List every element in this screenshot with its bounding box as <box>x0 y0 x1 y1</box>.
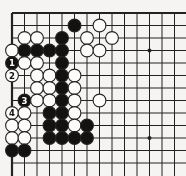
stone-white <box>18 119 31 132</box>
stone-white <box>68 94 81 107</box>
star-point <box>148 136 152 140</box>
stone-white <box>106 32 119 45</box>
stone-white <box>6 132 19 145</box>
stone-black <box>43 119 56 132</box>
stone-black <box>81 132 94 145</box>
stone-black <box>56 132 69 145</box>
move-number-label: 2 <box>9 71 15 81</box>
stone-black <box>18 44 31 57</box>
stone-white <box>18 132 31 145</box>
stone-black <box>56 119 69 132</box>
stone-black <box>43 107 56 120</box>
stone-black <box>31 44 44 57</box>
stone-white <box>18 57 31 70</box>
stone-white <box>68 107 81 120</box>
stone-black <box>56 44 69 57</box>
stone-white <box>18 32 31 45</box>
stone-black <box>81 119 94 132</box>
stone-white <box>93 44 106 57</box>
stone-white <box>31 69 44 82</box>
stone-black <box>68 132 81 145</box>
stone-black <box>43 44 56 57</box>
stone-black <box>18 144 31 157</box>
stone-black <box>56 82 69 95</box>
stone-white <box>43 69 56 82</box>
stone-white <box>81 32 94 45</box>
stone-white <box>93 19 106 32</box>
stone-black <box>56 32 69 45</box>
stone-white <box>81 44 94 57</box>
stone-black <box>56 107 69 120</box>
stone-white <box>43 94 56 107</box>
move-number-label: 3 <box>22 96 28 106</box>
stone-white <box>68 69 81 82</box>
stone-black <box>56 57 69 70</box>
go-diagram-page: 1234 <box>0 0 186 176</box>
stone-white <box>93 94 106 107</box>
go-board: 1234 <box>0 0 186 176</box>
stone-white <box>31 57 44 70</box>
move-number-label: 4 <box>9 108 15 118</box>
stone-white <box>68 82 81 95</box>
stone-black <box>56 69 69 82</box>
stone-white <box>31 32 44 45</box>
stone-black <box>68 19 81 32</box>
star-point <box>148 49 152 53</box>
stone-black <box>6 144 19 157</box>
stone-black <box>43 132 56 145</box>
stone-black <box>56 94 69 107</box>
stone-white <box>6 44 19 57</box>
stone-white <box>31 82 44 95</box>
stone-white <box>68 119 81 132</box>
stone-white <box>6 119 19 132</box>
stone-white <box>31 94 44 107</box>
stone-white <box>43 82 56 95</box>
move-number-label: 1 <box>9 58 15 68</box>
stone-white <box>18 107 31 120</box>
